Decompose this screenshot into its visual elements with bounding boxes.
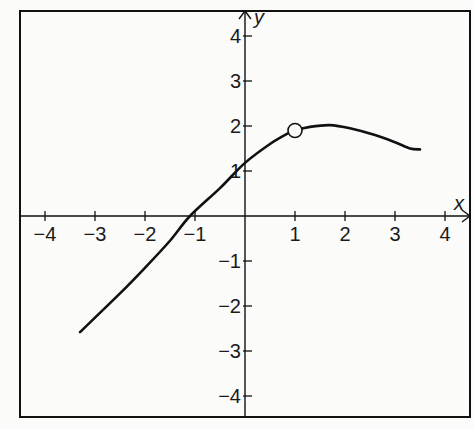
y-tick-label: 2 [230, 115, 241, 137]
y-tick-label: −2 [218, 295, 241, 317]
x-tick-label: −1 [184, 223, 207, 245]
x-tick-label: 3 [389, 223, 400, 245]
y-tick-label: 3 [230, 70, 241, 92]
x-axis-label: x [453, 192, 465, 214]
x-tick-label: 2 [339, 223, 350, 245]
y-tick-label: −4 [218, 385, 241, 407]
y-tick-label: −1 [218, 250, 241, 272]
y-tick-label: −3 [218, 340, 241, 362]
y-axis-label: y [252, 6, 265, 28]
function-graph: −4−3−2−112344321−1−2−3−4 x y [0, 0, 474, 429]
function-curve [80, 125, 420, 332]
y-tick-label: 4 [230, 25, 241, 47]
x-tick-label: −3 [84, 223, 107, 245]
x-tick-label: −2 [134, 223, 157, 245]
x-tick-label: 1 [289, 223, 300, 245]
open-circle-hole [288, 124, 302, 138]
axes [20, 11, 470, 417]
x-tick-label: 4 [439, 223, 450, 245]
x-tick-label: −4 [34, 223, 57, 245]
